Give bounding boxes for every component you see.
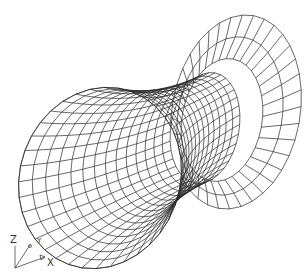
- ucs-z-label: Z: [10, 234, 17, 245]
- drawing-canvas[interactable]: Z Y X: [0, 0, 306, 277]
- ucs-y-axis: [15, 245, 30, 268]
- ucs-x-label: X: [47, 257, 54, 268]
- ucs-y-label: Y: [36, 237, 42, 245]
- x-arrow-icon: [40, 255, 45, 260]
